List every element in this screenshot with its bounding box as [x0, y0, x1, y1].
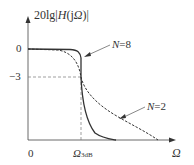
- curve-n2: [28, 49, 158, 140]
- curve-n8: [28, 49, 116, 140]
- x-tick-omega3db: Ω3dB: [73, 148, 93, 159]
- y-tick-minus3: −3: [9, 71, 21, 82]
- n8-pointer: [88, 45, 110, 55]
- x-tick-origin: 0: [28, 148, 34, 159]
- omega3db-symbol: Ω: [73, 147, 81, 159]
- y-axis-arrow-icon: [26, 16, 31, 23]
- omega3db-subscript: 3dB: [81, 151, 93, 159]
- annotation-n2: N=2: [147, 101, 166, 112]
- y-axis-label-mid: (j: [66, 8, 73, 22]
- n2-arrow-icon: [119, 114, 126, 119]
- y-axis-label-prefix: 20lg|: [34, 8, 58, 22]
- x-axis-label: Ω: [172, 147, 181, 159]
- n2-value: =2: [154, 100, 166, 112]
- y-axis-label: 20lg|H(jΩ)|: [34, 9, 89, 21]
- y-axis-label-end: )|: [82, 8, 88, 22]
- n8-arrow-icon: [84, 52, 91, 57]
- n8-value: =8: [119, 38, 131, 50]
- chart-plot: [0, 0, 194, 165]
- n2-pointer: [124, 107, 145, 117]
- annotation-n8: N=8: [112, 39, 131, 50]
- y-tick-0: 0: [16, 43, 22, 54]
- x-axis-arrow-icon: [169, 138, 176, 143]
